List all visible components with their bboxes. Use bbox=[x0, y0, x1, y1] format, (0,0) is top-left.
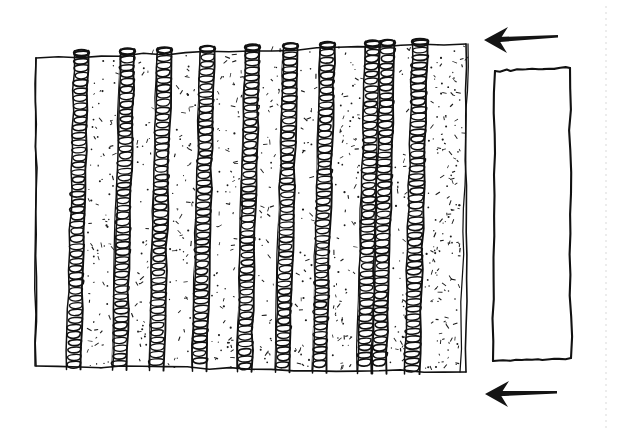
stipple-dot bbox=[106, 226, 108, 228]
stipple-dot bbox=[169, 281, 171, 283]
stipple-dot bbox=[177, 358, 178, 359]
stipple-dot bbox=[278, 89, 280, 91]
stipple-dot bbox=[262, 245, 263, 246]
stipple-dash bbox=[448, 214, 451, 215]
stipple-dot bbox=[190, 143, 192, 145]
stipple-dot bbox=[334, 257, 336, 259]
stipple-dot bbox=[92, 126, 94, 128]
stipple-dot bbox=[276, 67, 277, 68]
stipple-dot bbox=[442, 139, 444, 141]
stipple-dot bbox=[179, 249, 181, 251]
stipple-dot bbox=[183, 175, 184, 176]
stipple-dot bbox=[263, 87, 265, 89]
stipple-dash bbox=[301, 298, 302, 302]
stipple-dot bbox=[443, 223, 444, 224]
stipple-dot bbox=[337, 271, 339, 273]
stipple-dot bbox=[441, 83, 443, 85]
stipple-dash bbox=[357, 115, 360, 116]
stipple-dot bbox=[434, 252, 436, 254]
stipple-dot bbox=[354, 222, 356, 224]
stipple-dot bbox=[408, 57, 409, 58]
stipple-dot bbox=[302, 209, 304, 211]
stipple-dot bbox=[356, 177, 357, 178]
stipple-dot bbox=[309, 51, 311, 53]
stipple-dot bbox=[149, 138, 150, 139]
stipple-dot bbox=[452, 72, 453, 73]
stipple-dot bbox=[335, 315, 336, 316]
stipple-dash bbox=[342, 317, 343, 319]
stipple-dot bbox=[98, 103, 100, 105]
stipple-dot bbox=[427, 366, 429, 368]
stipple-dot bbox=[305, 319, 307, 321]
stipple-dot bbox=[228, 148, 230, 150]
stipple-dot bbox=[450, 235, 452, 237]
stipple-dot bbox=[455, 204, 457, 206]
stipple-dot bbox=[404, 196, 406, 198]
stipple-dot bbox=[394, 167, 396, 169]
side-block-face bbox=[493, 68, 571, 361]
stipple-dot bbox=[108, 219, 109, 220]
stipple-dot bbox=[145, 124, 147, 126]
stipple-dash bbox=[403, 166, 406, 167]
stipple-dot bbox=[403, 314, 404, 315]
stipple-dot bbox=[211, 295, 213, 297]
stipple-dot bbox=[459, 204, 461, 206]
stipple-dot bbox=[230, 327, 232, 329]
stipple-dot bbox=[304, 254, 306, 256]
stipple-dot bbox=[93, 263, 95, 265]
stipple-dot bbox=[229, 202, 230, 203]
stipple-dot bbox=[274, 66, 275, 67]
stipple-dot bbox=[310, 110, 311, 111]
stipple-dot bbox=[299, 251, 301, 253]
stipple-dash bbox=[344, 335, 345, 339]
stipple-dot bbox=[445, 115, 447, 117]
stipple-dot bbox=[428, 192, 429, 193]
stipple-dot bbox=[109, 243, 110, 244]
stipple-dot bbox=[176, 129, 178, 131]
stipple-dash bbox=[397, 186, 398, 188]
stipple-dot bbox=[108, 193, 110, 195]
stipple-dot bbox=[433, 246, 434, 247]
stipple-dot bbox=[90, 164, 91, 165]
stipple-dot bbox=[300, 354, 302, 356]
stipple-dash bbox=[148, 122, 150, 123]
stipple-dot bbox=[269, 322, 271, 324]
stipple-dot bbox=[312, 119, 314, 121]
stipple-dot bbox=[402, 252, 403, 253]
stipple-dash bbox=[148, 71, 149, 73]
stipple-dot bbox=[105, 214, 106, 215]
stipple-dash bbox=[145, 228, 149, 229]
stipple-dot bbox=[340, 105, 342, 107]
stipple-dot bbox=[102, 78, 103, 79]
stipple-dot bbox=[233, 176, 235, 178]
stipple-dot bbox=[176, 249, 178, 251]
figure-canvas bbox=[0, 0, 621, 433]
stipple-dot bbox=[345, 289, 347, 291]
stipple-dot bbox=[310, 143, 312, 145]
stipple-dot bbox=[307, 365, 308, 366]
stipple-dot bbox=[342, 345, 344, 347]
stipple-dot bbox=[143, 67, 145, 69]
stipple-dot bbox=[428, 140, 430, 142]
stipple-dot bbox=[109, 147, 111, 149]
stipple-dot bbox=[115, 115, 116, 116]
stipple-dot bbox=[218, 147, 219, 148]
stipple-dot bbox=[395, 205, 397, 207]
stipple-dash bbox=[140, 301, 142, 302]
stipple-dot bbox=[224, 288, 225, 289]
stipple-dot bbox=[454, 298, 456, 300]
stipple-dot bbox=[301, 218, 302, 219]
stipple-dot bbox=[183, 251, 184, 252]
stipple-dot bbox=[92, 107, 93, 108]
stipple-dot bbox=[446, 185, 448, 187]
stipple-dot bbox=[183, 259, 184, 260]
stipple-dot bbox=[101, 179, 102, 180]
stipple-dot bbox=[294, 350, 296, 352]
stipple-dot bbox=[343, 191, 345, 193]
stipple-dot bbox=[440, 57, 442, 59]
stipple-dot bbox=[267, 137, 268, 138]
stipple-dot bbox=[348, 345, 349, 346]
stipple-dot bbox=[266, 300, 268, 302]
stipple-dot bbox=[425, 286, 426, 287]
stipple-dot bbox=[108, 361, 109, 362]
